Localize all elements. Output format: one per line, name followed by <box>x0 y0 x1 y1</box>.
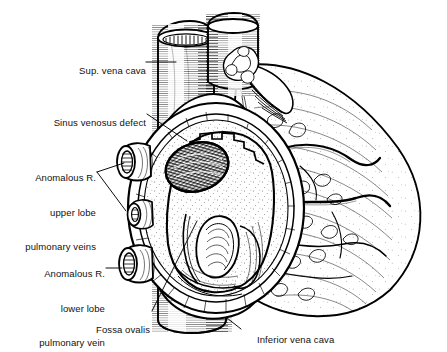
label-line: Sinus venosus defect <box>54 117 146 128</box>
label-line: Anomalous R. <box>0 172 96 184</box>
vein-stump-lower <box>119 245 155 282</box>
label-line: Sup. vena cava <box>79 65 146 76</box>
label-line: Fossa ovalis <box>96 324 150 335</box>
label-line: Anomalous R. <box>0 268 105 280</box>
vein-stump-middle <box>128 200 154 229</box>
label-sup-vena-cava: Sup. vena cava <box>10 53 146 88</box>
label-line: Inferior vena cava <box>257 334 334 345</box>
label-inferior-vena-cava: Inferior vena cava <box>246 322 386 352</box>
opened-right-atrium <box>128 103 304 313</box>
label-fossa-ovalis: Fossa ovalis <box>62 312 150 347</box>
label-line: upper lobe <box>0 207 96 219</box>
label-sinus-venosus-defect: Sinus venosus defect <box>0 105 146 140</box>
vein-stump-upper-1 <box>117 143 153 180</box>
